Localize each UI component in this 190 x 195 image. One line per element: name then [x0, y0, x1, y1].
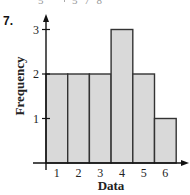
histogram-bar — [89, 74, 111, 163]
histogram-chart: 123123456 — [0, 0, 190, 195]
x-tick-label: 2 — [76, 166, 82, 180]
y-tick-label: 2 — [33, 67, 39, 81]
y-tick-label: 1 — [33, 112, 39, 126]
x-axis-label: Data — [98, 178, 125, 194]
histogram-bar — [68, 74, 90, 163]
histogram-bar — [111, 30, 133, 164]
histogram-bar — [155, 119, 177, 164]
histogram-bar — [133, 74, 155, 163]
x-axis-arrow-icon — [181, 160, 189, 166]
y-axis-arrow-icon — [43, 14, 49, 22]
x-tick-label: 1 — [54, 166, 60, 180]
x-tick-label: 5 — [141, 166, 147, 180]
x-tick-label: 6 — [162, 166, 168, 180]
y-tick-label: 3 — [33, 23, 39, 37]
y-axis-label: Frequency — [12, 57, 28, 116]
